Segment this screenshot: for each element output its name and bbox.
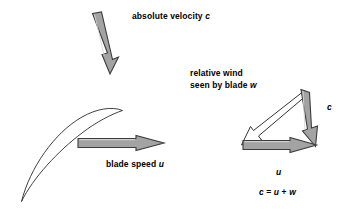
triangle-c-arrow <box>301 90 318 147</box>
relative-wind-w-arrow <box>242 91 308 146</box>
turbine-blade-airfoil <box>22 108 123 201</box>
velocity-triangle-figure: absolute velocity c relative windseen by… <box>0 0 357 216</box>
symbol-u: u <box>159 159 164 169</box>
relative-wind-line2: seen by blade <box>190 80 250 90</box>
symbol-c: c <box>205 11 210 21</box>
symbol-w: w <box>250 80 257 90</box>
label-blade-speed: blade speed u <box>106 159 164 170</box>
label-vector-u: u <box>276 167 281 178</box>
label-absolute-velocity: absolute velocity c <box>132 11 210 22</box>
velocity-triangle <box>242 90 318 153</box>
blade-speed-arrow <box>78 136 164 151</box>
label-equation: c = u + w <box>259 187 296 198</box>
absolute-velocity-arrow <box>93 12 119 74</box>
label-relative-wind: relative windseen by blade w <box>190 68 257 91</box>
label-vector-c: c <box>327 102 332 113</box>
diagram-canvas <box>0 0 357 216</box>
relative-wind-line1: relative wind <box>190 68 243 78</box>
